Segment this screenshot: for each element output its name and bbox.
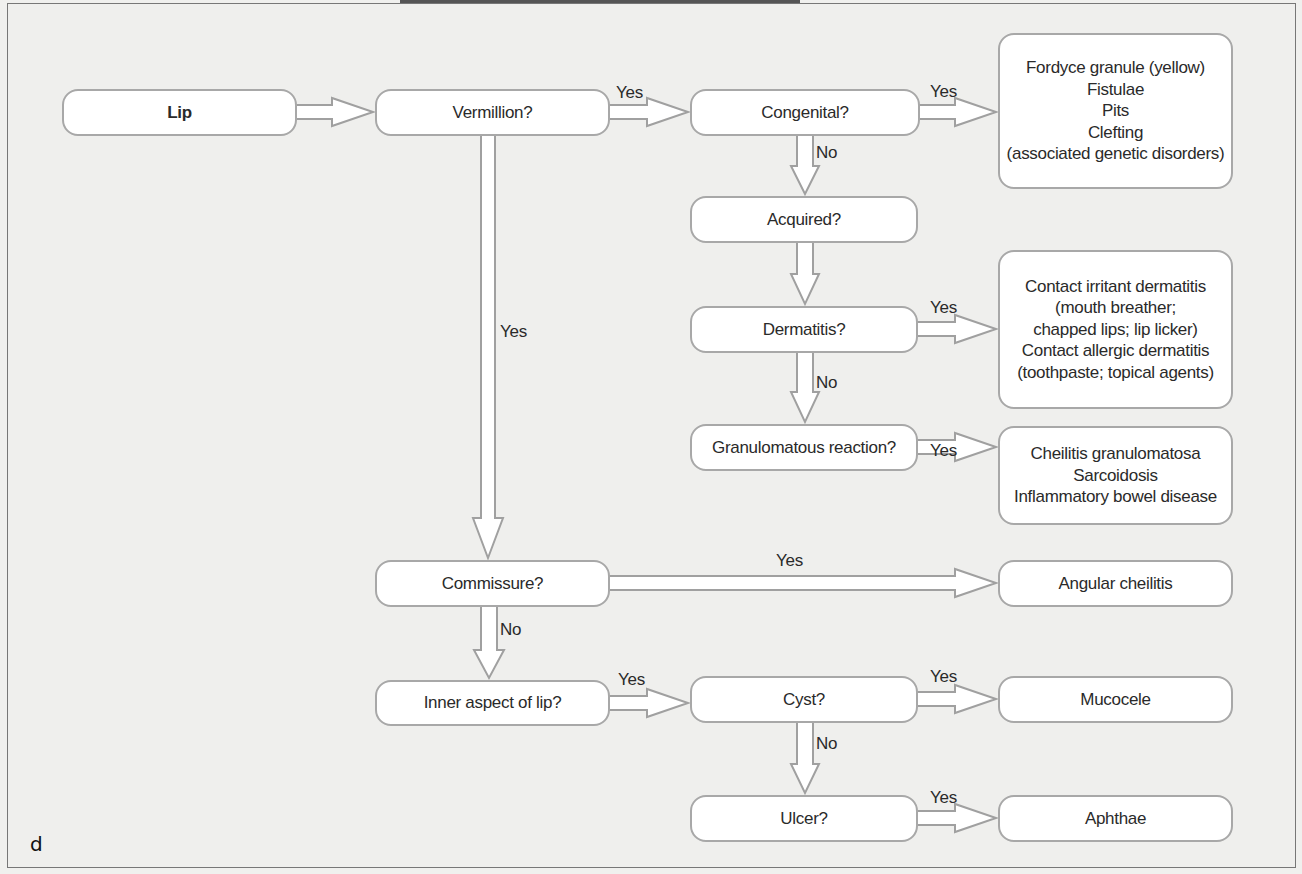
arrow-commissure-to-outcome: [609, 569, 996, 597]
node-lip: Lip: [62, 89, 297, 136]
outcome-congenital: Fordyce granule (yellow) Fistulae Pits C…: [998, 33, 1233, 189]
outcome-line: Sarcoidosis: [1014, 465, 1217, 487]
node-granulomatous: Granulomatous reaction?: [690, 424, 918, 471]
outcome-cyst: Mucocele: [998, 676, 1233, 723]
label-vermillion-yes: Yes: [616, 83, 643, 103]
arrow-dermatitis-to-granulomatous: [791, 351, 819, 422]
label-commissure-yes: Yes: [776, 551, 803, 571]
label-granulomatous-yes: Yes: [930, 441, 957, 461]
outcome-commissure: Angular cheilitis: [998, 560, 1233, 607]
label-commissure-no: No: [500, 620, 521, 640]
label-dermatitis-no: No: [816, 373, 837, 393]
arrow-cyst-to-ulcer: [791, 721, 819, 793]
outcome-line: Cheilitis granulomatosa: [1014, 443, 1217, 465]
node-dermatitis: Dermatitis?: [690, 306, 918, 353]
label-congenital-yes: Yes: [930, 82, 957, 102]
node-commissure: Commissure?: [375, 560, 610, 607]
label-vermillion-down-yes: Yes: [500, 322, 527, 342]
outcome-line: Inflammatory bowel disease: [1014, 486, 1217, 508]
outcome-line: Contact allergic dermatitis: [1017, 340, 1214, 362]
node-cyst: Cyst?: [690, 676, 918, 723]
arrow-vermillion-to-commissure: [473, 134, 503, 558]
arrow-ulcer-to-outcome: [917, 804, 996, 832]
label-congenital-no: No: [816, 143, 837, 163]
node-vermillion: Vermillion?: [375, 89, 610, 136]
outcome-ulcer: Aphthae: [998, 795, 1233, 842]
arrow-dermatitis-to-outcome: [917, 315, 996, 343]
label-cyst-no: No: [816, 734, 837, 754]
outcome-line: Fordyce granule (yellow): [1007, 57, 1225, 79]
outcome-line: Clefting: [1007, 122, 1225, 144]
arrow-commissure-to-inner: [474, 605, 504, 678]
node-ulcer: Ulcer?: [690, 795, 918, 842]
outcome-line: (toothpaste; topical agents): [1017, 362, 1214, 384]
outcome-line: chapped lips; lip licker): [1017, 319, 1214, 341]
outcome-line: Pits: [1007, 100, 1225, 122]
arrow-lip-to-vermillion: [296, 98, 373, 126]
node-inner-aspect: Inner aspect of lip?: [375, 680, 610, 726]
outcome-granulomatous: Cheilitis granulomatosa Sarcoidosis Infl…: [998, 426, 1233, 525]
outcome-dermatitis: Contact irritant dermatitis (mouth breat…: [998, 250, 1233, 409]
label-cyst-yes: Yes: [930, 667, 957, 687]
node-acquired: Acquired?: [690, 196, 918, 243]
label-inner-yes: Yes: [618, 670, 645, 690]
arrow-congenital-to-outcome: [919, 98, 996, 126]
arrow-congenital-to-acquired: [791, 134, 819, 194]
outcome-line: Contact irritant dermatitis: [1017, 276, 1214, 298]
outcome-line: Fistulae: [1007, 79, 1225, 101]
node-congenital: Congenital?: [690, 89, 920, 136]
outcome-line: (associated genetic disorders): [1007, 143, 1225, 165]
arrow-inner-to-cyst: [609, 689, 688, 717]
outcome-line: (mouth breather;: [1017, 297, 1214, 319]
label-dermatitis-yes: Yes: [930, 298, 957, 318]
label-ulcer-yes: Yes: [930, 788, 957, 808]
arrow-acquired-to-dermatitis: [791, 241, 819, 304]
panel-letter: d: [30, 832, 43, 856]
arrow-cyst-to-outcome: [917, 685, 996, 713]
